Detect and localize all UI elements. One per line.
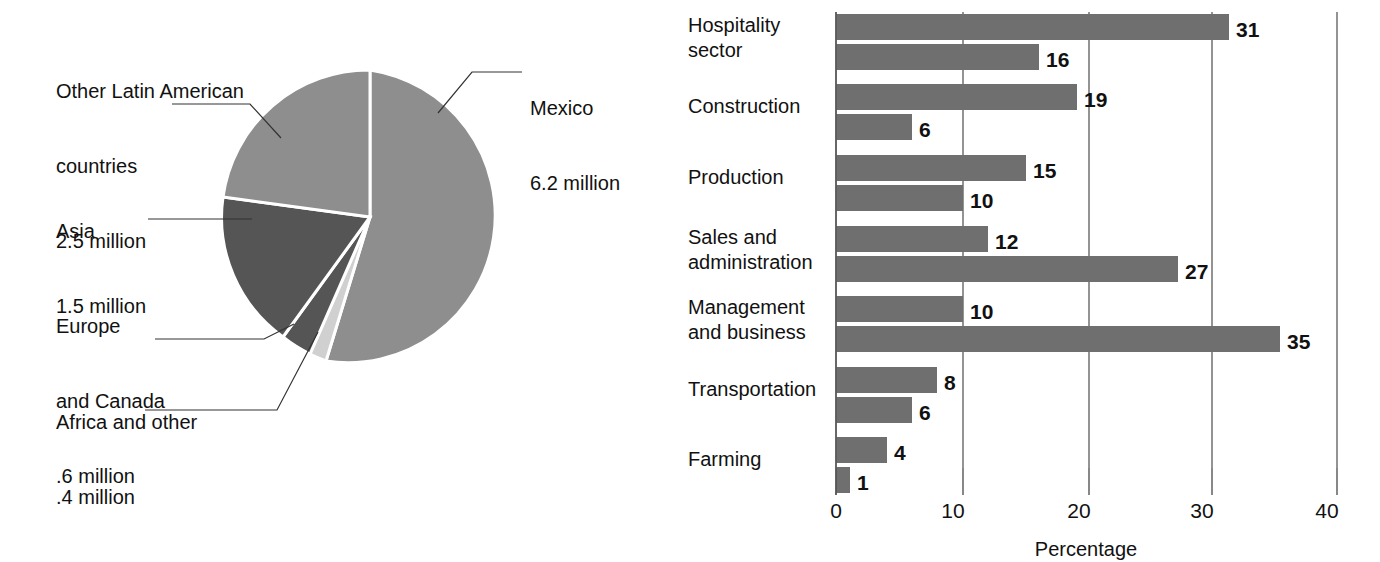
bar-value-transportation-b: 6	[919, 402, 931, 423]
category-label-sales-and-administration-line1: Sales and	[688, 225, 813, 250]
pie-label-africa-other-value: .4 million	[56, 485, 197, 510]
pie-chart-panel: Other Latin American countries 2.5 milli…	[0, 0, 680, 562]
pie-slice-other-latin-american	[223, 70, 370, 217]
bar-construction-a	[836, 84, 1077, 110]
bar-chart-panel: Hospitality sector Construction Producti…	[680, 0, 1380, 562]
xtick-label-20: 20	[1059, 500, 1099, 521]
category-label-production: Production	[688, 165, 784, 190]
xtick-label-40: 40	[1307, 500, 1347, 521]
category-label-farming: Farming	[688, 447, 761, 472]
chart-figure: Other Latin American countries 2.5 milli…	[0, 0, 1380, 562]
category-label-transportation: Transportation	[688, 377, 816, 402]
bar-hospitality-sector-b	[836, 44, 1039, 70]
bar-value-construction-a: 19	[1084, 89, 1107, 110]
bar-sales-and-administration-a	[836, 226, 988, 252]
pie-label-mexico-line1: Mexico	[530, 96, 620, 121]
bar-farming-a	[836, 437, 887, 463]
bar-value-management-and-business-b: 35	[1287, 331, 1310, 352]
bar-management-and-business-b	[836, 326, 1280, 352]
category-label-sales-and-administration-line2: administration	[688, 250, 813, 275]
pie-label-other-latin-american-line1: Other Latin American	[56, 79, 244, 104]
bar-farming-b	[836, 467, 850, 493]
bar-transportation-a	[836, 367, 937, 393]
category-label-management-and-business: Management and business	[688, 295, 806, 345]
category-label-management-and-business-line2: and business	[688, 320, 806, 345]
bar-transportation-b	[836, 397, 912, 423]
category-label-construction: Construction	[688, 94, 800, 119]
xtick-label-10: 10	[933, 500, 973, 521]
category-label-management-and-business-line1: Management	[688, 295, 806, 320]
pie-label-africa-other-line1: Africa and other	[56, 410, 197, 435]
pie-label-asia-line1: Asia	[56, 219, 146, 244]
axis-title-percentage: Percentage	[986, 538, 1186, 561]
bar-chart-graphic	[680, 0, 1380, 562]
category-label-farming-line1: Farming	[688, 447, 761, 472]
bar-value-farming-a: 4	[894, 442, 906, 463]
bar-value-farming-b: 1	[857, 472, 869, 493]
xtick-label-30: 30	[1182, 500, 1222, 521]
bar-value-production-a: 15	[1033, 160, 1056, 181]
category-label-hospitality-sector-line2: sector	[688, 38, 780, 63]
bar-value-sales-and-administration-b: 27	[1185, 261, 1208, 282]
bar-value-production-b: 10	[970, 190, 993, 211]
category-label-hospitality-sector: Hospitality sector	[688, 13, 780, 63]
bar-value-management-and-business-a: 10	[970, 301, 993, 322]
bar-value-hospitality-sector-a: 31	[1236, 19, 1259, 40]
leader-line-mexico	[438, 72, 522, 113]
bar-construction-b	[836, 114, 912, 140]
pie-label-mexico: Mexico 6.2 million	[530, 46, 620, 246]
bar-value-transportation-a: 8	[944, 372, 956, 393]
bar-production-b	[836, 185, 963, 211]
bar-value-sales-and-administration-a: 12	[995, 231, 1018, 252]
pie-label-europe-canada-line1: Europe	[56, 314, 165, 339]
xtick-label-0: 0	[816, 500, 856, 521]
category-label-transportation-line1: Transportation	[688, 377, 816, 402]
bar-sales-and-administration-b	[836, 256, 1178, 282]
pie-label-africa-other: Africa and other .4 million	[56, 360, 197, 560]
bar-hospitality-sector-a	[836, 14, 1229, 40]
category-label-hospitality-sector-line1: Hospitality	[688, 13, 780, 38]
category-label-construction-line1: Construction	[688, 94, 800, 119]
bar-management-and-business-a	[836, 296, 963, 322]
bar-value-hospitality-sector-b: 16	[1046, 49, 1069, 70]
pie-label-mexico-value: 6.2 million	[530, 171, 620, 196]
category-label-production-line1: Production	[688, 165, 784, 190]
bar-value-construction-b: 6	[919, 119, 931, 140]
category-label-sales-and-administration: Sales and administration	[688, 225, 813, 275]
bar-production-a	[836, 155, 1026, 181]
